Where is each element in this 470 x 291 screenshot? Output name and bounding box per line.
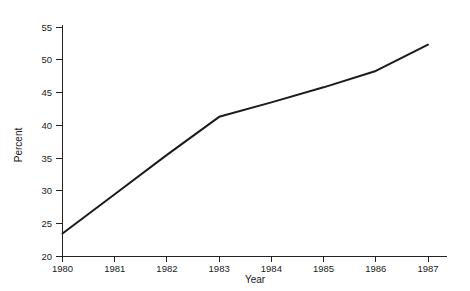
chart-background	[0, 0, 470, 291]
x-tick-label: 1981	[104, 263, 125, 274]
x-tick-label: 1987	[417, 263, 438, 274]
y-tick-label: 40	[41, 120, 52, 131]
line-chart-figure: 5550454035302520 Percent 198019811982198…	[0, 0, 470, 291]
y-tick-label: 45	[41, 87, 52, 98]
x-tick-label: 1986	[365, 263, 386, 274]
x-tick-label: 1984	[261, 263, 282, 274]
y-tick-label: 55	[41, 22, 52, 33]
chart-canvas: 5550454035302520 Percent 198019811982198…	[0, 0, 470, 291]
y-tick-label: 50	[41, 54, 52, 65]
x-tick-label: 1983	[209, 263, 230, 274]
y-axis-title: Percent	[13, 128, 24, 163]
x-axis-title: Year	[245, 274, 266, 285]
x-tick-label: 1982	[156, 263, 177, 274]
x-tick-label: 1980	[52, 263, 73, 274]
y-tick-label: 25	[41, 218, 52, 229]
y-tick-label: 30	[41, 185, 52, 196]
y-tick-label: 35	[41, 153, 52, 164]
y-tick-label: 20	[41, 251, 52, 262]
x-tick-label: 1985	[313, 263, 334, 274]
